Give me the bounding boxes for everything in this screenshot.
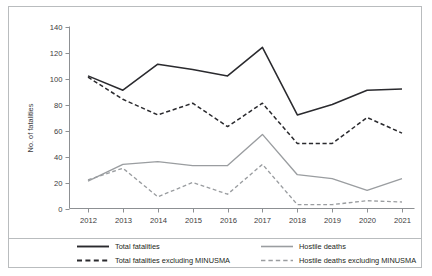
legend-column-right: Hostile deaths Hostile deaths excluding … [260,239,416,267]
legend-swatch-solid-grey [260,242,294,251]
legend-swatch-solid-dark [76,242,110,251]
data-series-group [88,47,402,204]
legend-label-total-fatalities: Total fatalities [115,242,160,251]
y-axis-tick-labels: 020406080100120140 [50,23,63,214]
x-tick-label-2016: 2016 [220,216,237,225]
x-tick-label-2018: 2018 [289,216,306,225]
y-tick-label-80: 80 [54,101,62,110]
line-chart: 020406080100120140 201220132014201520162… [0,0,432,276]
y-tick-label-120: 120 [50,49,63,58]
y-tick-label-40: 40 [54,153,62,162]
legend-item-hostile-deaths-excluding-minusma[interactable]: Hostile deaths excluding MINUSMA [260,254,416,267]
legend-label-total-fatalities-excluding-minusma: Total fatalities excluding MINUSMA [115,256,230,265]
series-line-hostile-deaths-excluding-minusma [88,164,402,204]
x-axis-tick-labels: 2012201320142015201620172018201920202021 [80,216,411,225]
y-tick-label-20: 20 [54,179,62,188]
y-tick-label-140: 140 [50,23,63,32]
chart-plot-area: 020406080100120140 201220132014201520162… [0,0,432,276]
legend-swatch-dashed-grey [260,256,294,265]
y-axis-ticks [66,28,70,210]
x-tick-label-2019: 2019 [324,216,341,225]
x-axis: 2012201320142015201620172018201920202021 [70,209,415,225]
series-line-hostile-deaths [88,134,402,190]
chart-legend: Total fatalities Total fatalities exclud… [8,238,422,268]
x-tick-label-2013: 2013 [115,216,132,225]
series-line-total-fatalities-excluding-minusma [88,77,402,143]
x-tick-label-2017: 2017 [254,216,271,225]
legend-label-hostile-deaths-excluding-minusma: Hostile deaths excluding MINUSMA [299,256,416,265]
x-tick-label-2020: 2020 [359,216,376,225]
x-axis-ticks [89,209,403,213]
x-tick-label-2014: 2014 [150,216,167,225]
legend-column-left: Total fatalities Total fatalities exclud… [76,239,230,267]
x-tick-label-2015: 2015 [185,216,202,225]
legend-item-total-fatalities-excluding-minusma[interactable]: Total fatalities excluding MINUSMA [76,254,230,267]
y-axis-title: No. of fatalities [26,103,35,152]
x-tick-label-2012: 2012 [80,216,97,225]
y-tick-label-0: 0 [58,205,62,214]
y-tick-label-100: 100 [50,75,63,84]
legend-item-total-fatalities[interactable]: Total fatalities [76,240,230,253]
legend-item-hostile-deaths[interactable]: Hostile deaths [260,240,416,253]
x-tick-label-2021: 2021 [394,216,411,225]
y-tick-label-60: 60 [54,127,62,136]
legend-swatch-dashed-dark [76,256,110,265]
y-axis: 020406080100120140 [50,23,70,214]
legend-label-hostile-deaths: Hostile deaths [299,242,346,251]
